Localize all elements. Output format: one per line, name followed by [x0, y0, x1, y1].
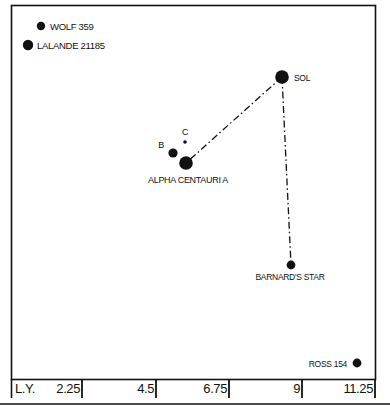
- star-label-wolf-359: WOLF 359: [50, 21, 94, 32]
- star-label-alpha-centauri-b: B: [158, 140, 164, 150]
- star-dot-barnards-star: [287, 261, 296, 270]
- star-alpha-centauri-b: B: [158, 140, 177, 158]
- star-dot-alpha-centauri-b: [168, 148, 177, 157]
- star-label-ross-154: ROSS 154: [309, 359, 348, 369]
- star-dot-lalande-21185: [23, 40, 33, 50]
- star-label-lalande-21185: LALANDE 21185: [37, 40, 105, 51]
- scale-tick-label-4: 11.25: [343, 381, 373, 396]
- star-map-diagram: WOLF 359LALANDE 21185SOLALPHA CENTAURI A…: [0, 0, 390, 407]
- star-dot-alpha-centauri-a: [179, 156, 193, 170]
- route-sol-to-barnards-star: [282, 77, 291, 265]
- distance-scale: L.Y. 2.254.56.75911.25: [15, 379, 375, 398]
- star-label-alpha-centauri-c: C: [182, 127, 189, 137]
- star-barnards-star: BARNARD'S STAR: [255, 261, 324, 282]
- route-sol-to-alpha-centauri-a: [186, 77, 282, 163]
- scale-tick-label-0: 2.25: [56, 381, 80, 396]
- star-dot-alpha-centauri-c: [183, 140, 187, 144]
- scale-tick-label-1: 4.5: [137, 381, 154, 396]
- star-wolf-359: WOLF 359: [37, 21, 94, 32]
- star-label-alpha-centauri-a: ALPHA CENTAURI A: [148, 175, 228, 185]
- star-alpha-centauri-c: C: [182, 127, 189, 144]
- star-dot-ross-154: [353, 359, 362, 368]
- star-dot-wolf-359: [37, 22, 45, 30]
- stars-layer: WOLF 359LALANDE 21185SOLALPHA CENTAURI A…: [23, 21, 362, 369]
- star-label-barnards-star: BARNARD'S STAR: [255, 272, 324, 282]
- scale-unit-label: L.Y.: [15, 381, 35, 396]
- star-ross-154: ROSS 154: [309, 359, 362, 369]
- star-dot-sol: [275, 70, 289, 84]
- routes-layer: [186, 77, 291, 265]
- scale-tick-label-2: 6.75: [203, 381, 227, 396]
- star-alpha-centauri-a: ALPHA CENTAURI A: [148, 156, 228, 185]
- scale-tick-label-3: 9: [293, 381, 300, 396]
- star-sol: SOL: [275, 70, 310, 84]
- star-label-sol: SOL: [294, 73, 311, 83]
- map-frame: [12, 6, 376, 380]
- star-lalande-21185: LALANDE 21185: [23, 40, 105, 51]
